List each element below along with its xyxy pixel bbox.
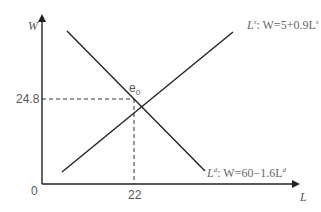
labor-demand-line	[67, 31, 205, 171]
equilibrium-wage-tick: 24.8	[16, 92, 40, 106]
y-axis-label: W	[28, 19, 39, 33]
equilibrium-chart: W L 0 24.8 22 e0 Ls: W=5+0.9Ls Ld: W=60−…	[0, 0, 321, 212]
x-axis-label: L	[299, 190, 307, 204]
equilibrium-point-label: e0	[129, 81, 141, 97]
equilibrium-labor-tick: 22	[128, 188, 142, 202]
labor-supply-line	[62, 32, 233, 172]
origin-label: 0	[31, 184, 38, 198]
demand-curve-label: Ld: W=60−1.6Ld	[206, 166, 287, 180]
supply-curve-label: Ls: W=5+0.9Ls	[246, 18, 319, 32]
